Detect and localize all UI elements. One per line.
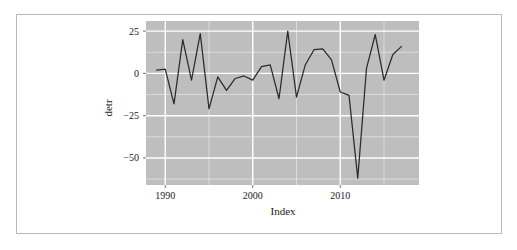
x-tick-label: 1990 — [155, 190, 175, 201]
line-chart-svg: 250−25−50 199020002010 detr Index — [0, 0, 517, 250]
plot-panel-background — [146, 21, 419, 185]
x-axis-ticks: 199020002010 — [155, 185, 350, 201]
y-tick-label: 25 — [129, 26, 139, 37]
figure-root: 250−25−50 199020002010 detr Index — [0, 0, 517, 250]
x-axis-label: Index — [270, 205, 296, 217]
x-tick-label: 2000 — [243, 190, 263, 201]
x-tick-label: 2010 — [330, 190, 350, 201]
y-axis-ticks: 250−25−50 — [123, 26, 146, 164]
y-tick-label: 0 — [134, 68, 139, 79]
y-tick-label: −50 — [123, 152, 139, 163]
y-axis-label: detr — [102, 99, 114, 116]
chart-plot-area: 250−25−50 199020002010 detr Index — [0, 0, 517, 250]
y-tick-label: −25 — [123, 110, 139, 121]
